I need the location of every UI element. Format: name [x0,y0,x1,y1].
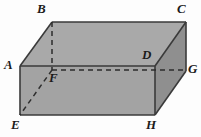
vertex-label-h: H [146,118,156,131]
prism-diagram [0,0,201,137]
vertex-label-d: D [142,48,151,61]
vertex-label-g: G [188,62,197,75]
front-face [20,66,155,115]
vertex-label-b: B [37,2,46,15]
vertex-label-f: F [49,71,58,84]
geometry-figure-canvas: A B C D E F G H [0,0,201,137]
vertex-label-c: C [177,2,186,15]
vertex-label-e: E [11,118,20,131]
vertex-label-a: A [4,58,13,71]
